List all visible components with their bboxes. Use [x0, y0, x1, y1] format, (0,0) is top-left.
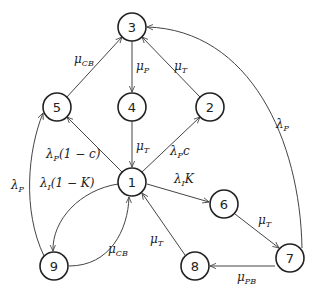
edge-labels: μCB μP μT μT λP(1 − c) λPc λIK λI(1 − K)…: [10, 52, 290, 286]
node-6: 6: [210, 190, 238, 218]
label-9-5: λP: [10, 178, 25, 194]
edge-1-5: [67, 117, 122, 172]
svg-text:3: 3: [128, 20, 136, 35]
label-7-3: λP: [275, 117, 290, 133]
node-7: 7: [276, 244, 304, 272]
edge-1-6: [147, 184, 209, 202]
edge-5-3: [66, 37, 122, 98]
svg-text:4: 4: [128, 100, 136, 115]
node-3: 3: [118, 13, 146, 41]
label-2-3: μT: [174, 59, 188, 75]
svg-text:6: 6: [220, 197, 228, 212]
node-5: 5: [43, 93, 71, 121]
edge-6-7: [235, 214, 279, 248]
svg-text:8: 8: [191, 259, 199, 274]
svg-text:9: 9: [50, 259, 58, 274]
edge-2-3: [142, 37, 200, 97]
label-1-9: λI(1 − K): [39, 176, 95, 192]
label-3-4: μP: [136, 59, 150, 75]
node-2: 2: [196, 93, 224, 121]
edge-8-1: [142, 193, 185, 255]
svg-text:1: 1: [128, 175, 136, 190]
state-diagram: μCB μP μT μT λP(1 − c) λPc λIK λI(1 − K)…: [0, 0, 316, 296]
label-6-7: μT: [258, 213, 272, 229]
label-5-3: μCB: [74, 52, 94, 68]
label-4-1: μT: [136, 139, 150, 155]
edge-1-9: [53, 184, 118, 251]
svg-text:2: 2: [206, 100, 214, 115]
label-1-6: λIK: [173, 172, 195, 188]
label-1-5: λP(1 − c): [45, 147, 101, 163]
label-8-1: μT: [150, 232, 164, 248]
svg-text:5: 5: [53, 100, 61, 115]
node-4: 4: [118, 93, 146, 121]
node-1: 1: [118, 168, 146, 196]
label-7-8: μPB: [237, 270, 256, 286]
label-1-2: λPc: [169, 144, 190, 160]
label-9-1: μCB: [108, 242, 128, 258]
node-9: 9: [40, 252, 68, 280]
svg-text:7: 7: [286, 251, 294, 266]
node-8: 8: [181, 252, 209, 280]
